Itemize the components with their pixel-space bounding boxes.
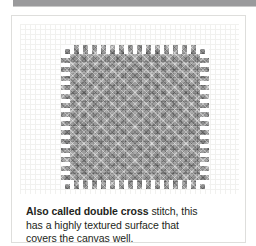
swatch-edge-left: [61, 45, 70, 189]
caption-line-1: Also called double cross stitch, this: [26, 205, 226, 219]
swatch-edge-bottom: [61, 180, 209, 189]
stitch-weave-texture: [61, 45, 209, 189]
swatch-edge-top: [61, 45, 209, 54]
caption-line-2: has a highly textured surface that: [26, 219, 226, 233]
stitch-swatch-illustration: [61, 45, 209, 189]
caption-line-3: covers the canvas well.: [26, 232, 226, 243]
stitch-info-card: Also called double cross stitch, this ha…: [11, 15, 246, 243]
card-inner-panel: Also called double cross stitch, this ha…: [15, 19, 242, 239]
caption-lead-text: Also called double cross: [26, 205, 149, 217]
canvas-grid-background: [20, 24, 239, 194]
stitch-caption: Also called double cross stitch, this ha…: [26, 205, 226, 243]
swatch-edge-right: [200, 45, 209, 189]
caption-line-1-rest: stitch, this: [149, 205, 198, 217]
header-rule-shadow: [13, 6, 256, 7]
